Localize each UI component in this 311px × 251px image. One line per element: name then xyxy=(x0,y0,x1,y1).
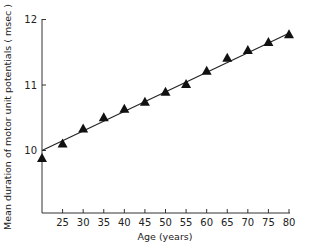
y-axis-label: Mean duration of motor unit potentials (… xyxy=(2,4,13,230)
y-tick-label: 10 xyxy=(24,145,37,156)
triangle-marker xyxy=(161,87,171,96)
triangle-marker xyxy=(78,123,88,132)
triangle-marker xyxy=(222,53,232,62)
axes: 253035404550556065707580101112 xyxy=(24,14,295,228)
y-tick-label: 11 xyxy=(24,80,37,91)
x-tick-label: 65 xyxy=(221,217,234,228)
x-tick-label: 30 xyxy=(77,217,90,228)
x-tick-label: 75 xyxy=(262,217,275,228)
triangle-marker xyxy=(243,45,253,54)
triangle-marker xyxy=(140,97,150,106)
x-tick-label: 40 xyxy=(118,217,131,228)
chart: 253035404550556065707580101112 Age (year… xyxy=(0,0,311,251)
x-tick-label: 45 xyxy=(139,217,152,228)
x-tick-label: 50 xyxy=(159,217,172,228)
triangle-marker xyxy=(58,139,68,148)
x-axis-label: Age (years) xyxy=(138,231,193,242)
x-tick-label: 70 xyxy=(241,217,254,228)
x-tick-label: 25 xyxy=(56,217,69,228)
y-tick-label: 12 xyxy=(24,14,37,25)
x-tick-label: 80 xyxy=(283,217,296,228)
x-tick-label: 35 xyxy=(97,217,110,228)
x-tick-label: 60 xyxy=(200,217,213,228)
x-tick-label: 55 xyxy=(180,217,193,228)
triangle-marker xyxy=(99,112,109,121)
triangle-marker xyxy=(37,153,47,162)
triangle-marker xyxy=(284,29,294,38)
triangle-marker xyxy=(119,104,129,113)
